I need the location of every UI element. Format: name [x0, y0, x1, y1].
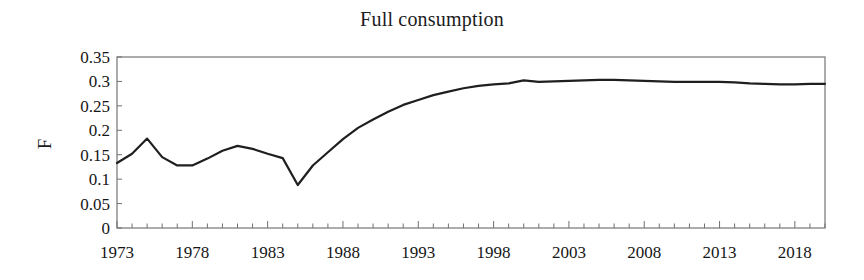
series-line-F: [117, 80, 825, 185]
x-axis-ticks: [117, 221, 825, 228]
plot-area: [0, 0, 864, 280]
chart-figure: Full consumption F 0.350.30.250.20.150.1…: [0, 0, 864, 280]
y-axis-ticks: [117, 57, 122, 228]
